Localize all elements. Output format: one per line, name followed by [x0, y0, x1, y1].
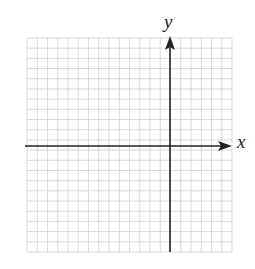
x-axis-label: x [237, 132, 245, 151]
grid-lines [27, 38, 232, 252]
coordinate-grid [0, 0, 255, 269]
y-axis-label: y [164, 12, 172, 31]
